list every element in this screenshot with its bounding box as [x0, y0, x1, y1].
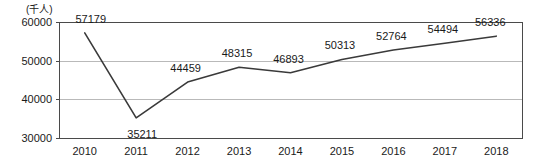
data-label-2011: 35211: [127, 128, 157, 140]
x-tick-label-2014: 2014: [278, 145, 302, 157]
data-label-2016: 52764: [376, 30, 407, 42]
data-label-2017: 54494: [428, 23, 459, 35]
x-tick-label-2015: 2015: [330, 145, 354, 157]
x-tick-label-2017: 2017: [433, 145, 457, 157]
data-label-2015: 50313: [325, 39, 356, 51]
x-tick-label-2016: 2016: [381, 145, 405, 157]
y-tick-label-40000: 40000: [21, 93, 52, 105]
x-tick-label-2018: 2018: [484, 145, 508, 157]
y-axis-unit-label: (千人): [26, 4, 53, 15]
x-axis-tick-labels: 201020112012201320142015201620172018: [72, 145, 508, 157]
y-tick-label-30000: 30000: [21, 132, 52, 144]
data-label-2012: 44459: [170, 62, 201, 74]
x-tick-label-2010: 2010: [72, 145, 96, 157]
y-tick-label-60000: 60000: [21, 16, 52, 28]
x-tick-label-2012: 2012: [175, 145, 199, 157]
data-label-2010: 57179: [75, 13, 106, 25]
line-chart: 30000400005000060000 2010201120122013201…: [0, 0, 542, 166]
data-label-2018: 56336: [475, 16, 506, 28]
chart-canvas: 30000400005000060000 2010201120122013201…: [0, 0, 542, 166]
data-label-2014: 46893: [273, 53, 304, 65]
x-tick-label-2011: 2011: [124, 145, 148, 157]
data-label-2013: 48315: [222, 47, 253, 59]
x-tick-label-2013: 2013: [227, 145, 251, 157]
y-tick-label-50000: 50000: [21, 55, 52, 67]
